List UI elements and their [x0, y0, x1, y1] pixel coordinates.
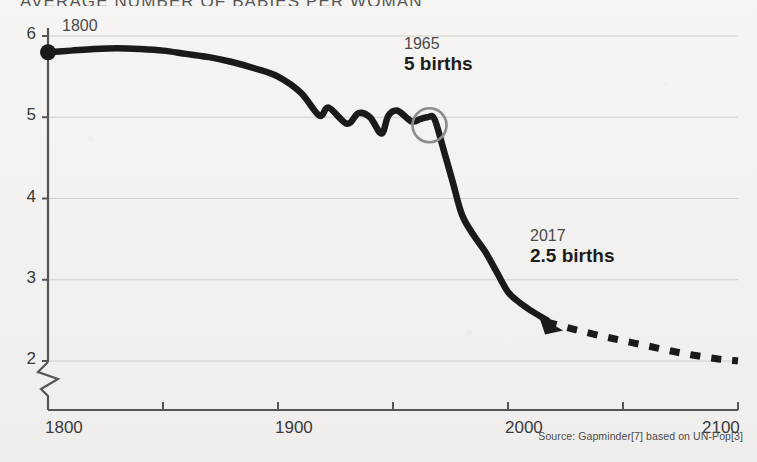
start-year-label: 1800: [62, 18, 98, 35]
y-axis-tick-label-5: 5: [10, 105, 36, 125]
y-axis-tick-label-6: 6: [10, 24, 36, 44]
x-axis-tick-label-1900: 1900: [275, 418, 313, 438]
source-note: Source: Gapminder[7] based on UN-Pop[3]: [538, 430, 743, 442]
end-year-label: 2017: [530, 228, 614, 245]
y-axis-tick-label-4: 4: [10, 187, 36, 207]
series-line-1: [547, 322, 738, 361]
axes: [38, 28, 738, 410]
plot-area: [0, 0, 757, 462]
fertility-rate-chart: AVERAGE NUMBER OF BABIES PER WOMAN 65432…: [0, 0, 757, 462]
y-axis-tick-label-3: 3: [10, 268, 36, 288]
marker-layer: [40, 44, 563, 334]
series-layer: [48, 48, 738, 361]
x-axis-tick-label-1800: 1800: [45, 418, 83, 438]
annotation-2017: 2017 2.5 births: [530, 228, 614, 267]
annotation-start-year: 1800: [62, 18, 98, 35]
arrow-head: [539, 316, 563, 334]
mid-value-label: 5 births: [404, 53, 473, 75]
x-axis-tick-label-2000: 2000: [505, 418, 543, 438]
y-axis-tick-label-2: 2: [10, 349, 36, 369]
start-dot: [40, 44, 56, 60]
mid-year-label: 1965: [404, 36, 473, 53]
annotation-1965: 1965 5 births: [404, 36, 473, 75]
gridlines: [48, 36, 738, 361]
end-value-label: 2.5 births: [530, 245, 614, 267]
